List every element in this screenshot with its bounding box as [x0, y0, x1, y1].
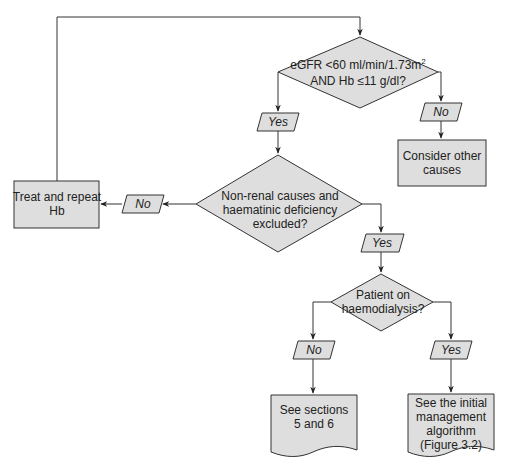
flowchart: eGFR <60 ml/min/1.73m2 AND Hb ≤11 g/dl? …: [0, 0, 508, 468]
nonrenal-line1: Non-renal causes and: [221, 189, 338, 203]
nonrenal-line3: excluded?: [253, 217, 308, 231]
label-yes-nonrenal-text: Yes: [372, 236, 392, 250]
decision-egfr-line2: AND Hb ≤11 g/dl?: [310, 74, 406, 88]
label-yes-dialysis: Yes: [430, 341, 472, 359]
label-no-dialysis: No: [293, 341, 335, 359]
treat-line2: Hb: [49, 204, 65, 218]
document-see-sections: See sections 5 and 6: [271, 395, 357, 457]
sections-line2: 5 and 6: [294, 417, 334, 431]
algorithm-line2: management: [416, 410, 487, 424]
consider-line1: Consider other: [403, 149, 482, 163]
label-yes-dialysis-text: Yes: [441, 343, 461, 357]
consider-line2: causes: [423, 163, 461, 177]
document-initial-management-algorithm: See the initial management algorithm (Fi…: [408, 394, 494, 457]
label-yes-egfr-text: Yes: [268, 115, 288, 129]
label-yes-egfr: Yes: [257, 113, 299, 131]
sections-line1: See sections: [280, 403, 349, 417]
connector-egfr-no: [438, 72, 441, 101]
connector-dialysis-no: [313, 302, 331, 339]
treat-line1: Treat and repeat: [13, 190, 102, 204]
box-consider-other-causes: Consider other causes: [398, 140, 486, 186]
algorithm-line1: See the initial: [415, 396, 487, 410]
label-no-egfr: No: [420, 103, 462, 121]
connector-nonrenal-yes: [362, 204, 381, 232]
label-no-nonrenal: No: [122, 195, 164, 213]
decision-nonrenal-excluded: Non-renal causes and haematinic deficien…: [196, 155, 362, 252]
connector-loop-back: [57, 17, 360, 181]
dialysis-line1: Patient on: [356, 288, 410, 302]
algorithm-line4: (Figure 3.2): [420, 438, 482, 452]
decision-egfr-sup: 2: [421, 57, 426, 66]
label-no-nonrenal-text: No: [135, 197, 151, 211]
algorithm-line3: algorithm: [426, 424, 475, 438]
decision-egfr-line1: eGFR <60 ml/min/1.73m: [290, 58, 421, 72]
label-no-egfr-text: No: [433, 105, 449, 119]
decision-on-haemodialysis: Patient on haemodialysis?: [331, 274, 433, 331]
label-yes-nonrenal: Yes: [361, 234, 404, 252]
dialysis-line2: haemodialysis?: [342, 302, 425, 316]
connector-dialysis-yes: [433, 302, 451, 339]
decision-egfr-hb: eGFR <60 ml/min/1.73m2 AND Hb ≤11 g/dl?: [278, 37, 438, 108]
box-treat-repeat-hb: Treat and repeat Hb: [13, 181, 102, 228]
nonrenal-line2: haematinic deficiency: [223, 203, 338, 217]
label-no-dialysis-text: No: [306, 343, 322, 357]
svg-text:eGFR <60 ml/min/1.73m2: eGFR <60 ml/min/1.73m2: [290, 57, 426, 72]
